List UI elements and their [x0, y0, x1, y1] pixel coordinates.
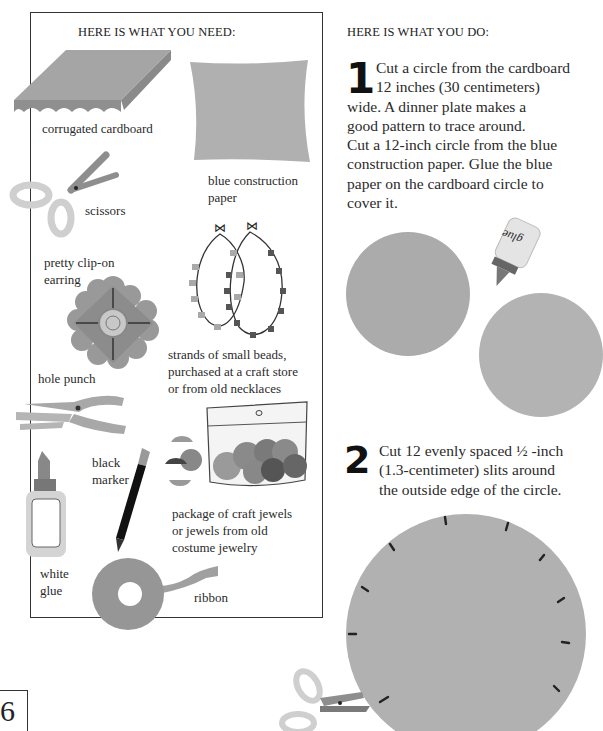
label-beads: strands of small beads, purchased at a c… [168, 346, 298, 397]
cardboard-circle-icon [344, 230, 474, 360]
needs-heading: HERE IS WHAT YOU NEED: [78, 25, 236, 40]
step-2-number: 2 [344, 440, 370, 480]
label-scissors: scissors [85, 202, 125, 219]
step-2-text: Cut 12 evenly spaced ½ -inch (1.3-centim… [379, 441, 603, 499]
cardboard-icon [6, 48, 171, 118]
glue-icon [24, 451, 70, 559]
page-number: 6 [0, 694, 15, 728]
step-1-text: Cut a circle from the cardboard 12 inche… [347, 58, 603, 212]
svg-text:⋈: ⋈ [246, 219, 258, 233]
jewels-icon [155, 400, 315, 492]
label-corrugated-cardboard: corrugated cardboard [42, 120, 153, 137]
paper-icon [190, 60, 310, 162]
paper-circle-icon [478, 292, 603, 418]
label-blue-construction-paper: blue construction paper [208, 172, 298, 206]
earring-icon [68, 278, 158, 368]
beads-icon: ⋈ ⋈ [184, 222, 294, 342]
svg-text:⋈: ⋈ [214, 221, 226, 235]
hole-punch-icon [14, 392, 129, 442]
label-white-glue: white glue [40, 565, 69, 599]
label-ribbon: ribbon [194, 589, 228, 606]
scissors-icon [6, 150, 116, 235]
label-hole-punch: hole punch [38, 370, 95, 387]
steps-heading: HERE IS WHAT YOU DO: [347, 25, 489, 40]
marker-icon [112, 448, 152, 553]
label-craft-jewels: package of craft jewels or jewels from o… [172, 505, 292, 556]
scissors-cutting-icon [280, 668, 390, 731]
